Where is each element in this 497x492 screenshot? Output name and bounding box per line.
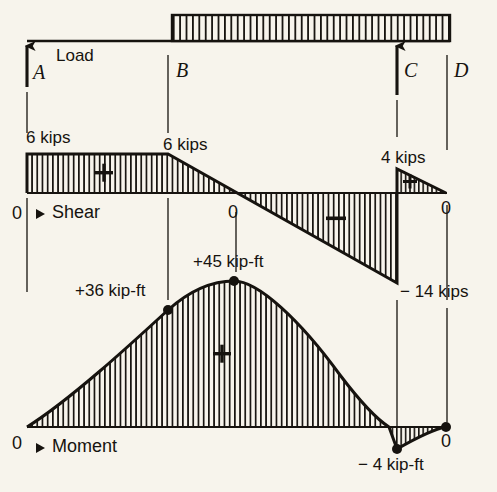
shear-axis-label: Shear xyxy=(52,203,100,221)
moment-zero-label-right: 0 xyxy=(441,432,451,450)
moment-value-label-c: − 4 kip-ft xyxy=(358,456,424,473)
station-label-c: C xyxy=(404,60,417,80)
moment-point-c xyxy=(392,444,402,454)
moment-axis-label: Moment xyxy=(52,437,117,455)
shear-value-label-c-left: − 14 kips xyxy=(400,283,469,300)
shear-zero-label-left: 0 xyxy=(12,204,22,222)
moment-zero-label-left: 0 xyxy=(12,434,22,452)
moment-positive-region-fill xyxy=(27,281,389,427)
moment-value-label-max: +45 kip-ft xyxy=(193,253,263,270)
shear-value-label-b: 6 kips xyxy=(163,136,207,153)
shear-minus-sign xyxy=(326,217,346,221)
shear-value-label-c-right: 4 kips xyxy=(381,149,425,166)
shear-axis-arrow-marker xyxy=(36,209,45,219)
moment-point-b xyxy=(163,305,173,315)
uniform-distributed-load-fill xyxy=(172,15,450,41)
moment-point-max xyxy=(229,276,239,286)
load-axis-label: Load xyxy=(56,47,94,64)
moment-panel xyxy=(27,276,451,454)
beam-diagram-svg xyxy=(0,0,497,492)
station-label-a: A xyxy=(33,62,45,82)
shear-zero-label-mid: 0 xyxy=(228,203,238,221)
shear-value-label-a: 6 kips xyxy=(26,129,70,146)
station-label-d: D xyxy=(454,60,468,80)
moment-value-label-b: +36 kip-ft xyxy=(75,282,145,299)
shear-zero-label-right: 0 xyxy=(441,199,451,217)
station-label-b: B xyxy=(176,60,188,80)
beam-diagram-figure: Load A B C D 6 kips 6 kips 4 kips − 14 k… xyxy=(0,0,497,492)
moment-axis-arrow-marker xyxy=(36,443,45,453)
